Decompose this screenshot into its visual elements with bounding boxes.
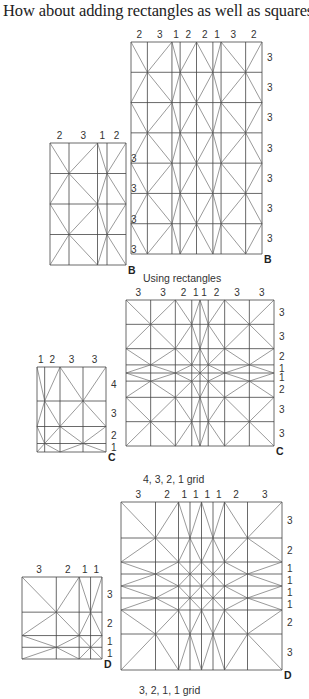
row-label: 1 xyxy=(107,648,113,659)
row-label: 3 xyxy=(279,428,285,439)
column-label: 1 xyxy=(38,354,44,365)
column-label: 2 xyxy=(65,564,71,575)
grid-figure-C-small: 12334321C xyxy=(37,354,117,463)
column-label: 1 xyxy=(99,130,105,141)
column-label: 2 xyxy=(164,489,170,500)
column-label: 1 xyxy=(193,489,199,500)
row-label: 1 xyxy=(287,575,293,586)
column-label: 1 xyxy=(204,489,210,500)
column-label: 2 xyxy=(233,489,239,500)
row-label: 1 xyxy=(287,587,293,598)
row-label: 1 xyxy=(287,563,293,574)
column-label: 1 xyxy=(94,564,100,575)
row-label: 1 xyxy=(279,372,285,383)
row-label: 3 xyxy=(131,214,137,225)
row-label: 1 xyxy=(107,636,113,647)
column-label: 2 xyxy=(114,130,120,141)
column-label: 3 xyxy=(69,354,75,365)
column-label: 2 xyxy=(181,287,187,298)
figure-letter-label: D xyxy=(104,658,112,670)
row-label: 3 xyxy=(267,82,273,93)
figure-letter-label: B xyxy=(264,253,272,265)
column-label: 2 xyxy=(251,29,257,40)
figure-letter-label: B xyxy=(128,264,136,276)
row-label: 3 xyxy=(279,331,285,342)
grid-figure-C-large: 3321123333211233C xyxy=(126,287,285,457)
grid-figure-D-small: 32113211D xyxy=(22,564,113,670)
row-label: 3 xyxy=(287,515,293,526)
grid-figure-D-large: 3211112332111123D xyxy=(121,489,293,681)
column-label: 1 xyxy=(214,29,220,40)
row-label: 2 xyxy=(279,351,285,362)
column-label: 3 xyxy=(36,564,42,575)
column-label: 1 xyxy=(173,29,179,40)
column-label: 1 xyxy=(201,287,207,298)
column-label: 2 xyxy=(214,287,220,298)
row-label: 2 xyxy=(111,430,117,441)
row-label: 1 xyxy=(287,599,293,610)
column-label: 3 xyxy=(234,287,240,298)
row-label: 3 xyxy=(107,589,113,600)
column-label: 1 xyxy=(193,287,199,298)
column-label: 3 xyxy=(80,130,86,141)
row-label: 3 xyxy=(267,173,273,184)
row-label: 3 xyxy=(279,404,285,415)
row-label: 3 xyxy=(267,112,273,123)
row-label: 2 xyxy=(107,618,113,629)
column-label: 1 xyxy=(82,564,88,575)
column-label: 3 xyxy=(92,354,98,365)
row-label: 2 xyxy=(287,617,293,628)
column-label: 3 xyxy=(231,29,237,40)
row-label: 2 xyxy=(279,384,285,395)
row-label: 3 xyxy=(131,183,137,194)
row-label: 3 xyxy=(267,143,273,154)
column-label: 2 xyxy=(202,29,208,40)
row-label: 3 xyxy=(111,408,117,419)
row-label: 3 xyxy=(267,203,273,214)
column-label: 3 xyxy=(136,287,142,298)
row-label: 3 xyxy=(287,647,293,658)
grid-figures: 23123333B231221323333333B12334321C332112… xyxy=(0,0,309,699)
column-label: 3 xyxy=(160,287,166,298)
column-label: 1 xyxy=(216,489,222,500)
row-label: 3 xyxy=(279,307,285,318)
column-label: 1 xyxy=(181,489,187,500)
row-label: 3 xyxy=(267,52,273,63)
column-label: 2 xyxy=(136,29,142,40)
column-label: 3 xyxy=(259,287,265,298)
column-label: 3 xyxy=(135,489,141,500)
figure-letter-label: C xyxy=(108,451,116,463)
column-label: 2 xyxy=(50,354,56,365)
row-label: 3 xyxy=(267,233,273,244)
figure-letter-label: C xyxy=(276,445,284,457)
grid-figure-B-large: 231221323333333B xyxy=(131,29,273,265)
figure-letter-label: D xyxy=(284,669,292,681)
column-label: 2 xyxy=(186,29,192,40)
column-label: 3 xyxy=(262,489,268,500)
column-label: 2 xyxy=(57,130,63,141)
grid-figure-B-small: 23123333B xyxy=(50,130,137,276)
column-label: 3 xyxy=(157,29,163,40)
row-label: 2 xyxy=(287,545,293,556)
row-label: 4 xyxy=(111,379,117,390)
